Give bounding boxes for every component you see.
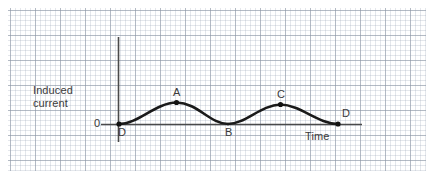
point-label-b: B: [225, 126, 232, 139]
y-axis-label-line1: Induced: [33, 84, 73, 96]
y-axis-label: Inducedcurrent: [33, 84, 73, 109]
point-label-a: A: [173, 86, 180, 99]
point-label-d-start: D: [118, 126, 126, 139]
marker-point-a: [174, 100, 179, 105]
x-axis-label: Time: [305, 130, 329, 143]
point-label-c: C: [277, 88, 285, 101]
curve-arch-second: [228, 105, 338, 125]
point-label-d-end: D: [342, 107, 350, 120]
marker-point-c: [278, 102, 283, 107]
y-axis-label-line2: current: [33, 97, 68, 109]
marker-point-d-end: [335, 121, 340, 126]
origin-label: 0: [94, 117, 100, 130]
figure-canvas: Inducedcurrent Time 0 A B C D D: [0, 0, 432, 179]
curve-arch-first: [119, 103, 228, 125]
